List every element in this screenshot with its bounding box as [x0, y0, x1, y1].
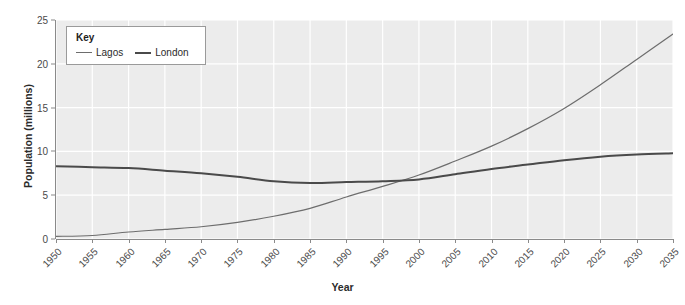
legend-label: Lagos [96, 47, 123, 58]
y-axis-tick-label: 0 [8, 234, 48, 245]
x-axis-tick-label: 2030 [608, 246, 644, 282]
legend-line-swatch [135, 52, 151, 54]
legend-line-swatch [76, 52, 92, 53]
y-axis-tick-label: 25 [8, 15, 48, 26]
x-axis-tick-label: 2010 [463, 246, 499, 282]
chart-title [0, 0, 685, 5]
x-axis-tick-label: 1965 [137, 246, 173, 282]
legend-item-lagos[interactable]: Lagos [76, 47, 123, 58]
x-axis-tick-mark [673, 239, 674, 243]
x-axis-tick-label: 2020 [536, 246, 572, 282]
x-axis-tick-label: 2025 [572, 246, 608, 282]
x-axis-title: Year [0, 281, 685, 293]
legend: Key LagosLondon [66, 26, 206, 65]
x-axis-tick-label: 2035 [645, 246, 681, 282]
x-axis-tick-label: 1995 [354, 246, 390, 282]
x-axis-tick-label: 2005 [427, 246, 463, 282]
legend-title: Key [76, 32, 196, 43]
x-axis-tick-label: 1970 [173, 246, 209, 282]
plot-area: Key LagosLondon [56, 20, 673, 239]
y-axis-tick-label: 10 [8, 146, 48, 157]
x-axis-tick-label: 1960 [100, 246, 136, 282]
x-axis-tick-label: 1985 [282, 246, 318, 282]
x-axis-tick-label: 2015 [500, 246, 536, 282]
y-axis-tick-label: 5 [8, 190, 48, 201]
legend-entries: LagosLondon [76, 47, 196, 58]
y-axis-tick-label: 20 [8, 58, 48, 69]
x-axis-tick-label: 1990 [318, 246, 354, 282]
x-axis-tick-label: 2000 [391, 246, 427, 282]
x-axis-line [56, 239, 673, 240]
x-axis-tick-label: 1980 [245, 246, 281, 282]
line-chart: Population (millions) 0510152025 1950195… [0, 0, 685, 305]
x-axis-tick-label: 1955 [64, 246, 100, 282]
x-axis-tick-label: 1975 [209, 246, 245, 282]
legend-label: London [155, 47, 188, 58]
legend-item-london[interactable]: London [135, 47, 188, 58]
series-line-london [56, 153, 673, 183]
y-axis-tick-label: 15 [8, 102, 48, 113]
x-axis-tick-label: 1950 [28, 246, 64, 282]
